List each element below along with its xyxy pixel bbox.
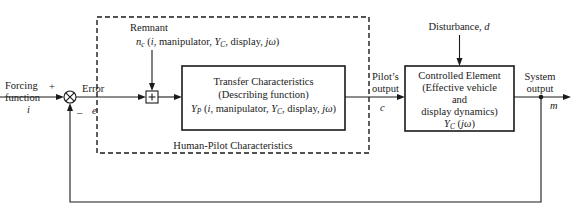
error-signal: Error e [76,83,146,116]
controlled-line4: display dynamics) [421,106,498,118]
error-arrow-icon [138,94,146,100]
pilot-output-arrow-icon [397,94,405,100]
system-output-symbol-m: m [550,100,558,111]
summing-junction: – [64,91,83,118]
remnant-arrow-icon [149,83,155,91]
system-output-signal: System output m [514,71,571,111]
forcing-label-line1: Forcing [5,80,38,91]
to-transfer-arrow-icon [174,94,182,100]
transfer-line2: (Describing function) [218,89,309,101]
pilot-output-signal: Pilot’s output c [345,71,405,113]
error-symbol-e: e [92,105,97,116]
input-symbol-i: i [27,104,30,115]
human-pilot-label: Human-Pilot Characteristics [173,140,292,151]
forcing-function-input: Forcing function + i [0,80,64,115]
block-diagram: Forcing function + i – Error e Human-Pil… [0,0,585,211]
pilot-output-label-line2: output [372,83,399,94]
pilot-output-symbol-c: c [380,102,385,113]
controlled-line1: Controlled Element [418,70,501,81]
pilot-output-label-line1: Pilot’s [372,71,399,82]
human-pilot-block: Human-Pilot Characteristics Remnant nc (… [97,17,369,153]
disturbance-label: Disturbance, d [428,21,490,32]
system-output-label-line1: System [525,71,556,82]
input-arrow-icon [56,94,64,100]
remnant-expression: nc (i, manipulator, YC, display, jω) [136,36,280,49]
system-output-label-line2: output [527,83,554,94]
disturbance-arrow-icon [457,58,463,66]
controlled-line3: and [452,94,468,105]
transfer-line1: Transfer Characteristics [213,76,313,87]
feedback-arrow-icon [67,103,73,111]
controlled-element-block: Controlled Element (Effective vehicle an… [405,66,514,131]
disturbance-input: Disturbance, d [428,21,490,66]
feedback-minus-sign: – [76,107,83,118]
remnant-label: Remnant [130,22,168,33]
error-label: Error [82,83,105,94]
controlled-line2: (Effective vehicle [422,82,497,94]
system-output-arrow-icon [563,94,571,100]
input-plus-sign: + [49,81,55,92]
